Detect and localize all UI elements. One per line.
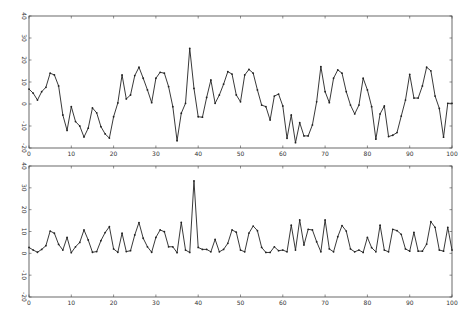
data-point [37, 99, 39, 101]
data-point [58, 85, 60, 87]
data-point [337, 236, 339, 238]
x-tick-label: 70 [321, 150, 329, 157]
data-point [240, 101, 242, 103]
data-point [303, 135, 305, 137]
data-point [307, 135, 309, 137]
data-point [32, 92, 34, 94]
data-point [290, 224, 292, 226]
x-tick-label: 30 [152, 150, 160, 157]
data-point [290, 114, 292, 116]
data-point [320, 251, 322, 253]
data-point [37, 251, 39, 253]
data-point [168, 86, 170, 88]
data-point [362, 252, 364, 254]
data-point [324, 219, 326, 221]
data-point [430, 70, 432, 72]
data-point [307, 228, 309, 230]
data-point [53, 232, 55, 234]
data-point [92, 251, 94, 253]
data-point [41, 91, 43, 93]
data-point [147, 89, 149, 91]
data-point [41, 249, 43, 251]
data-point [163, 72, 165, 74]
data-point [447, 226, 449, 228]
data-point [168, 246, 170, 248]
data-point [189, 252, 191, 254]
data-point [451, 102, 453, 104]
data-point [197, 116, 199, 118]
data-point [79, 125, 81, 127]
data-point [189, 47, 191, 49]
plot-frame [29, 16, 452, 148]
data-point [235, 231, 237, 233]
data-point [261, 247, 263, 249]
x-tick-label: 50 [237, 299, 245, 306]
data-point [134, 75, 136, 77]
data-point [185, 102, 187, 104]
data-point [388, 251, 390, 253]
data-point [121, 74, 123, 76]
data-point [92, 107, 94, 109]
data-point [223, 83, 225, 85]
data-point [350, 248, 352, 250]
data-point [379, 224, 381, 226]
x-tick-label: 80 [364, 150, 372, 157]
x-tick-label: 60 [279, 150, 287, 157]
data-point [214, 102, 216, 104]
data-point [227, 71, 229, 73]
data-point [159, 71, 161, 73]
data-point [413, 97, 415, 99]
data-point [375, 251, 377, 253]
data-point [180, 112, 182, 114]
data-point [104, 232, 106, 234]
data-point [163, 231, 165, 233]
data-point [409, 250, 411, 252]
data-point [70, 252, 72, 254]
data-point [185, 249, 187, 251]
data-point [49, 72, 51, 74]
data-point [235, 94, 237, 96]
data-point [240, 249, 242, 251]
data-point [413, 231, 415, 233]
data-point [28, 247, 30, 249]
data-point [197, 247, 199, 249]
data-point [155, 77, 157, 79]
data-point [96, 112, 98, 114]
data-point [430, 221, 432, 223]
data-point [66, 130, 68, 132]
data-point [58, 243, 60, 245]
data-point [252, 225, 254, 227]
data-point [75, 121, 77, 123]
y-tick-label: -20 [21, 143, 28, 153]
data-point [269, 119, 271, 121]
data-point [252, 72, 254, 74]
data-point [333, 77, 335, 79]
data-point [316, 241, 318, 243]
data-point [400, 115, 402, 117]
data-point [113, 116, 115, 118]
y-tick-label: 0 [21, 251, 28, 255]
data-point [383, 249, 385, 251]
data-point [324, 91, 326, 93]
data-point [147, 246, 149, 248]
data-point [62, 249, 64, 251]
data-point [447, 102, 449, 104]
data-point [261, 104, 263, 106]
data-point [79, 242, 81, 244]
data-point [130, 94, 132, 96]
data-point [75, 246, 77, 248]
x-tick-label: 10 [67, 150, 75, 157]
data-point [87, 127, 89, 129]
data-point [172, 106, 174, 108]
data-point [371, 106, 373, 108]
data-point [320, 66, 322, 68]
data-point [125, 251, 127, 253]
data-point [172, 246, 174, 248]
y-tick-label: 40 [21, 162, 28, 170]
data-point [265, 252, 267, 254]
data-point [295, 142, 297, 144]
data-point [312, 229, 314, 231]
data-point [362, 77, 364, 79]
data-point [426, 243, 428, 245]
data-point [417, 250, 419, 252]
